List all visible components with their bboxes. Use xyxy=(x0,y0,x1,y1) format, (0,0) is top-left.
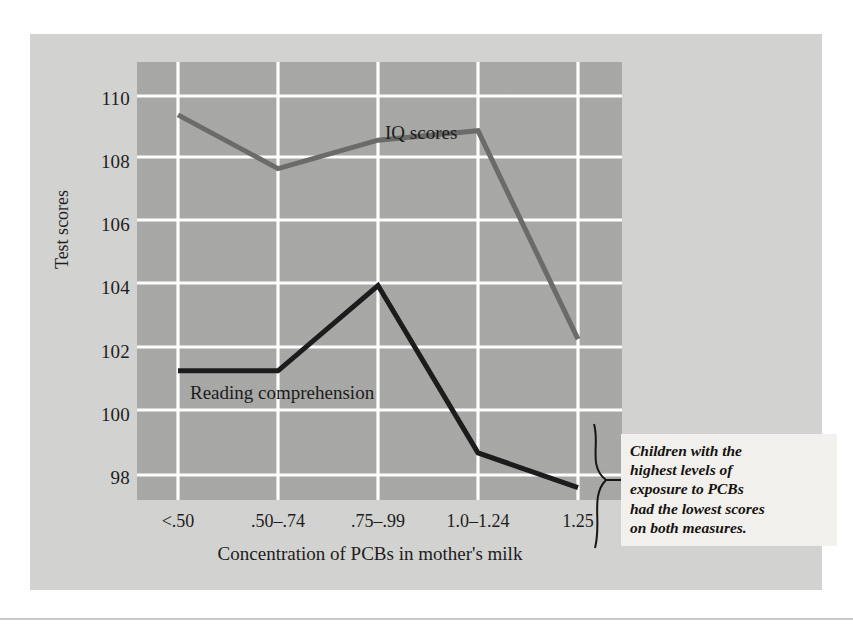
y-tick-100: 100 xyxy=(101,405,130,424)
y-axis-title: Test scores xyxy=(52,165,73,295)
annotation-line-3: exposure to PCBs xyxy=(630,479,829,498)
annotation-callout: Children with the highest levels of expo… xyxy=(621,434,837,546)
annotation-line-2: highest levels of xyxy=(630,460,829,479)
y-tick-104: 104 xyxy=(101,278,130,297)
x-axis-title: Concentration of PCBs in mother's milk xyxy=(90,543,650,565)
chart-canvas xyxy=(137,62,622,500)
vertical-gridlines xyxy=(178,62,578,500)
series-label-reading: Reading comprehension xyxy=(190,383,374,402)
figure-panel: Test scores 110 108 106 104 102 100 98 xyxy=(30,34,822,590)
figure-bottom-rule xyxy=(0,618,853,620)
y-tick-102: 102 xyxy=(101,342,130,361)
series-label-iq: IQ scores xyxy=(385,123,457,142)
y-tick-106: 106 xyxy=(101,215,130,234)
annotation-line-1: Children with the xyxy=(630,441,829,460)
y-tick-108: 108 xyxy=(101,152,130,171)
annotation-line-4: had the lowest scores xyxy=(630,499,829,518)
plot-area: IQ scores Reading comprehension xyxy=(137,62,622,500)
y-tick-98: 98 xyxy=(111,468,130,487)
annotation-line-5: on both measures. xyxy=(630,518,829,537)
y-axis-tick-labels: 110 108 106 104 102 100 98 xyxy=(85,34,130,554)
y-tick-110: 110 xyxy=(102,89,130,108)
